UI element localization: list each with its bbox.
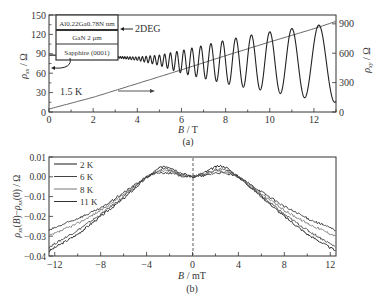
svg-text:0: 0	[47, 114, 52, 125]
panel-b-x-axis-label: B / mT	[178, 270, 206, 281]
legend-item: 2 K	[80, 160, 94, 170]
panel-a-label: (a)	[182, 136, 193, 148]
svg-text:−4: −4	[141, 259, 152, 270]
svg-text:0: 0	[190, 259, 195, 270]
svg-text:60: 60	[36, 68, 46, 79]
svg-text:120: 120	[31, 29, 46, 40]
layer-stack-inset: Al0.22Ga0.78N nm GaN 2 μm Sapphire (0001…	[56, 15, 161, 60]
panel-b-x-ticks: −12−8−404812	[47, 252, 335, 270]
svg-text:−0.03: −0.03	[24, 232, 46, 242]
svg-text:30: 30	[36, 87, 46, 98]
svg-text:0.00: 0.00	[29, 172, 46, 182]
layer-algan: Al0.22Ga0.78N nm	[59, 20, 115, 28]
figure: 024681012 0306090120150 0300600900 Al0.2…	[0, 0, 385, 301]
svg-text:12: 12	[309, 114, 319, 125]
legend-item: 6 K	[80, 172, 94, 182]
panel-a-x-ticks: 024681012	[47, 108, 337, 125]
panel-a-chart: 024681012 0306090120150 0300600900 Al0.2…	[18, 10, 373, 149]
svg-text:−0.04: −0.04	[24, 252, 46, 262]
svg-text:8: 8	[282, 259, 287, 270]
svg-text:900: 900	[339, 18, 354, 29]
panel-b-y-axis-label: ρxx(B)−ρxx(0) / Ω	[12, 175, 23, 239]
svg-text:2: 2	[91, 114, 96, 125]
legend-item: 8 K	[80, 185, 94, 195]
svg-text:300: 300	[339, 77, 354, 88]
panel-a-y2-axis-label: ρxy / Ω	[361, 47, 373, 73]
svg-text:8: 8	[223, 114, 228, 125]
svg-text:150: 150	[31, 10, 46, 21]
panel-b-label: (b)	[186, 283, 198, 295]
svg-text:−0.02: −0.02	[24, 212, 46, 222]
svg-text:0: 0	[41, 107, 46, 118]
svg-text:−12: −12	[47, 259, 63, 270]
svg-text:12: 12	[325, 259, 335, 270]
svg-text:0.01: 0.01	[29, 153, 46, 163]
2deg-label: 2DEG	[135, 23, 161, 34]
layer-sapphire: Sapphire (0001)	[64, 49, 110, 57]
temperature-label: 1.5 K	[60, 86, 83, 97]
panel-b-chart: −12−8−404812 −0.04−0.03−0.02−0.010.000.0…	[12, 153, 336, 296]
svg-text:−0.01: −0.01	[24, 192, 46, 202]
panel-a-y-axis-label: ρxx / Ω	[18, 53, 30, 79]
panel-a-y-ticks: 0306090120150	[31, 10, 53, 118]
svg-text:90: 90	[36, 48, 46, 59]
svg-text:−8: −8	[95, 259, 106, 270]
svg-text:4: 4	[135, 114, 140, 125]
layer-gan: GaN 2 μm	[72, 34, 102, 42]
svg-text:4: 4	[236, 259, 241, 270]
svg-text:10: 10	[265, 114, 275, 125]
legend-item: 11 K	[80, 197, 98, 207]
panel-a-x-axis-label: B / T	[178, 124, 198, 135]
panel-b-legend: 2 K6 K8 K11 K	[54, 160, 98, 208]
svg-text:600: 600	[339, 48, 354, 59]
svg-text:0: 0	[339, 107, 344, 118]
